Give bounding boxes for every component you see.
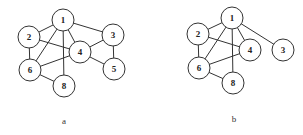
node-6: 6	[19, 59, 41, 81]
node-5: 5	[103, 58, 125, 80]
node-label: 5	[112, 64, 117, 74]
node-label: 8	[62, 81, 67, 91]
node-3: 3	[272, 39, 294, 61]
node-6: 6	[188, 57, 210, 79]
node-4: 4	[239, 39, 261, 61]
graph-a-nodes: 1234568	[18, 9, 125, 97]
node-label: 1	[61, 15, 66, 25]
node-label: 3	[281, 45, 286, 55]
node-label: 4	[248, 45, 253, 55]
node-label: 2	[196, 29, 201, 39]
node-2: 2	[18, 26, 40, 48]
node-8: 8	[53, 75, 75, 97]
node-label: 6	[197, 63, 202, 73]
node-label: 2	[27, 32, 32, 42]
graph-b: 123468 b	[187, 7, 294, 124]
node-label: 8	[231, 78, 236, 88]
graph-a-caption: a	[62, 116, 66, 126]
graph-b-caption: b	[232, 114, 237, 124]
node-1: 1	[52, 9, 74, 31]
node-1: 1	[221, 7, 243, 29]
graph-figure: 1234568 a 123468 b	[0, 0, 303, 135]
graph-a: 1234568 a	[18, 9, 125, 126]
node-4: 4	[69, 41, 91, 63]
graph-b-nodes: 123468	[187, 7, 294, 94]
node-label: 4	[78, 47, 83, 57]
node-label: 3	[111, 30, 116, 40]
node-3: 3	[102, 24, 124, 46]
node-2: 2	[187, 23, 209, 45]
node-label: 1	[230, 13, 235, 23]
node-8: 8	[222, 72, 244, 94]
node-label: 6	[28, 65, 33, 75]
